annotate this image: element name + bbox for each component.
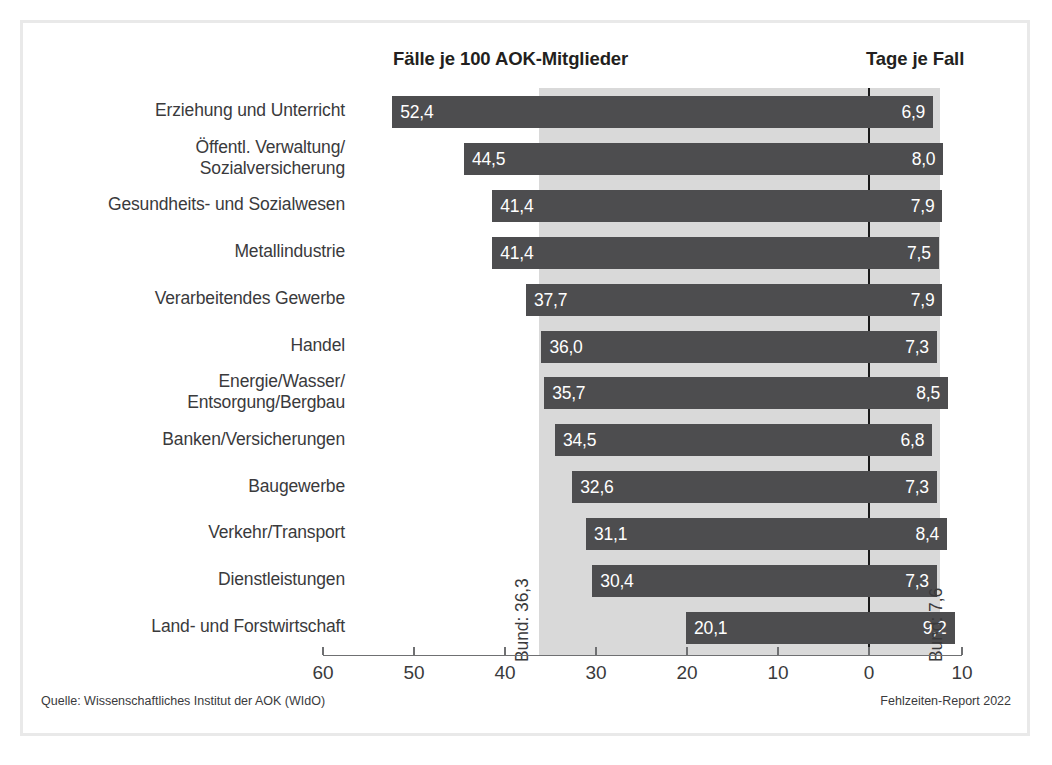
bund-faelle-annotation: Bund: 36,3	[512, 578, 533, 662]
bar-value-tage: 7,3	[879, 477, 929, 498]
bar-value-faelle: 36,0	[549, 337, 582, 358]
bar-value-faelle: 44,5	[472, 149, 505, 170]
column-header-tage: Tage je Fall	[866, 48, 964, 70]
bar	[392, 96, 933, 128]
bar-value-tage: 7,3	[879, 571, 929, 592]
bar-value-faelle: 41,4	[500, 243, 533, 264]
column-header-faelle: Fälle je 100 AOK-Mitglieder	[393, 48, 628, 70]
axis-tick-label: 50	[403, 662, 424, 684]
bar-value-faelle: 37,7	[534, 290, 567, 311]
x-axis-line	[323, 655, 962, 656]
bar	[541, 331, 936, 363]
axis-tick-label: 0	[864, 662, 875, 684]
bar-value-faelle: 32,6	[580, 477, 613, 498]
category-label: Gesundheits- und Sozialwesen	[0, 194, 345, 215]
bar-value-tage: 6,9	[875, 102, 925, 123]
bar	[492, 190, 942, 222]
axis-tick-label: 30	[585, 662, 606, 684]
plot-area: Fälle je 100 AOK-Mitglieder Tage je Fall…	[0, 0, 1052, 765]
axis-tick-label: 60	[312, 662, 333, 684]
category-label: Verarbeitendes Gewerbe	[0, 288, 345, 309]
category-label: Handel	[0, 335, 345, 356]
axis-tick-label: 10	[767, 662, 788, 684]
bar	[464, 143, 943, 175]
axis-tick	[504, 647, 505, 655]
axis-tick	[322, 647, 323, 655]
bar	[492, 237, 938, 269]
category-label: Dienstleistungen	[0, 569, 345, 590]
bar-value-faelle: 35,7	[552, 383, 585, 404]
category-label: Öffentl. Verwaltung/ Sozialversicherung	[0, 137, 345, 180]
category-label: Erziehung und Unterricht	[0, 100, 345, 121]
bar-value-faelle: 41,4	[500, 196, 533, 217]
bar-value-tage: 8,5	[890, 383, 940, 404]
bar-value-tage: 7,5	[881, 243, 931, 264]
axis-tick	[961, 647, 962, 655]
bar-value-faelle: 20,1	[694, 618, 727, 639]
bar-value-tage: 6,8	[874, 430, 924, 451]
bar-value-tage: 7,3	[879, 337, 929, 358]
bar-value-faelle: 34,5	[563, 430, 596, 451]
axis-tick	[595, 647, 596, 655]
axis-tick-label: 10	[951, 662, 972, 684]
bar-value-tage: 8,4	[889, 524, 939, 545]
bar-value-faelle: 52,4	[400, 102, 433, 123]
bar	[544, 377, 948, 409]
bar-value-faelle: 30,4	[600, 571, 633, 592]
category-label: Land- und Forstwirtschaft	[0, 616, 345, 637]
category-label: Verkehr/Transport	[0, 522, 345, 543]
axis-tick	[777, 647, 778, 655]
source-note: Quelle: Wissenschaftliches Institut der …	[41, 694, 325, 708]
chart-figure: Fälle je 100 AOK-Mitglieder Tage je Fall…	[0, 0, 1052, 765]
axis-tick-label: 40	[494, 662, 515, 684]
axis-tick-label: 20	[676, 662, 697, 684]
bar-value-faelle: 31,1	[594, 524, 627, 545]
bar-value-tage: 7,9	[884, 196, 934, 217]
category-label: Energie/Wasser/ Entsorgung/Bergbau	[0, 371, 345, 414]
category-label: Banken/Versicherungen	[0, 429, 345, 450]
axis-tick	[413, 647, 414, 655]
bar	[526, 284, 943, 316]
bund-tage-annotation: Bund: 7,6	[926, 588, 947, 662]
category-label: Metallindustrie	[0, 241, 345, 262]
axis-tick	[686, 647, 687, 655]
axis-tick	[868, 647, 869, 655]
bar-value-tage: 7,9	[884, 290, 934, 311]
bar-value-tage: 8,0	[885, 149, 935, 170]
report-note: Fehlzeiten-Report 2022	[880, 694, 1011, 708]
category-label: Baugewerbe	[0, 476, 345, 497]
